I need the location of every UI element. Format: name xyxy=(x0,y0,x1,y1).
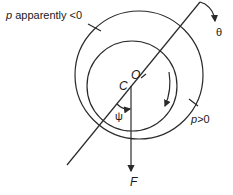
label-force-F: F xyxy=(130,175,138,189)
rotation-arrow xyxy=(165,72,170,106)
theta-arc-arrow xyxy=(205,4,215,21)
label-point-O: O xyxy=(131,68,140,82)
journal-bearing-diagram: p apparently <0 θ O C ψ p>0 F xyxy=(0,0,233,195)
label-point-C: C xyxy=(119,79,128,93)
label-theta: θ xyxy=(216,26,222,38)
point-O-tick xyxy=(141,74,146,78)
label-p-negative: p apparently <0 xyxy=(5,9,82,21)
theta-reference-hook xyxy=(200,2,205,4)
psi-angle-arc xyxy=(117,104,130,109)
label-p-positive: p>0 xyxy=(190,113,210,125)
label-psi: ψ xyxy=(115,110,123,122)
